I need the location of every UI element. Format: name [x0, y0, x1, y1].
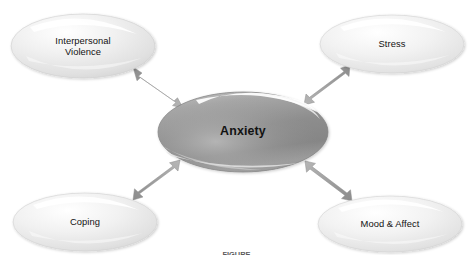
- connector-stress: [304, 65, 350, 105]
- diagram-canvas: Interpersonal Violence Stress Coping Moo…: [0, 0, 473, 255]
- node-stress[interactable]: [320, 15, 464, 73]
- connector-coping: [133, 160, 180, 200]
- figure-caption: FIGURE: [0, 250, 473, 255]
- connector-interpersonal-violence: [133, 67, 183, 108]
- node-mood-and-affect[interactable]: [318, 196, 462, 252]
- connector-mood-and-affect: [305, 161, 352, 201]
- node-coping[interactable]: [13, 193, 157, 251]
- node-interpersonal-violence[interactable]: [11, 14, 155, 78]
- concept-map-svg: [0, 0, 473, 255]
- node-anxiety[interactable]: [158, 92, 328, 172]
